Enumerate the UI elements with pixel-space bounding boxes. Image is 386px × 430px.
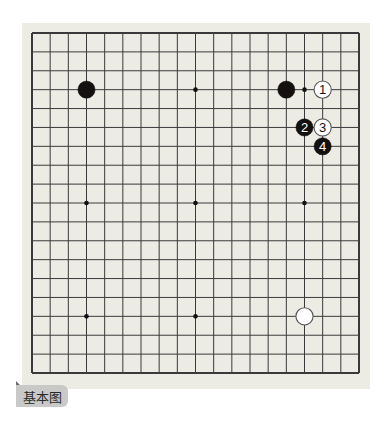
star-point-icon xyxy=(193,87,198,92)
white-stone-move-3: 3 xyxy=(314,119,331,136)
move-number-label: 1 xyxy=(319,82,326,97)
star-point-icon xyxy=(84,314,89,319)
white-stone xyxy=(296,308,313,325)
star-point-icon xyxy=(302,87,307,92)
black-stone-move-4: 4 xyxy=(314,138,331,155)
black-stone-move-2: 2 xyxy=(296,119,313,136)
move-number-label: 4 xyxy=(319,139,326,154)
white-stone-move-1: 1 xyxy=(314,81,331,98)
diagram-caption-text: 基本图 xyxy=(23,387,62,406)
black-stone xyxy=(278,81,295,98)
star-point-icon xyxy=(193,314,198,319)
black-stone xyxy=(78,81,95,98)
star-point-icon xyxy=(302,201,307,206)
star-point-icon xyxy=(84,201,89,206)
star-point-icon xyxy=(193,201,198,206)
move-number-label: 2 xyxy=(301,120,308,135)
diagram-caption: 基本图 xyxy=(16,385,68,407)
go-board: 1234 xyxy=(0,0,386,430)
move-number-label: 3 xyxy=(319,120,326,135)
